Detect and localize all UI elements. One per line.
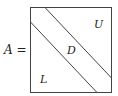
region-label-l: L	[39, 73, 47, 86]
region-label-d: D	[66, 44, 76, 57]
matrix-diagram: U D L	[0, 0, 118, 96]
region-label-u: U	[94, 18, 104, 31]
